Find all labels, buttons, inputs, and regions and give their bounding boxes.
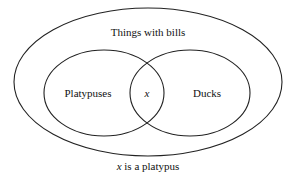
venn-diagram: Things with bills Platypuses x Ducks x i… — [0, 0, 290, 182]
set-platypuses-label: Platypuses — [64, 87, 111, 99]
caption-text: is a platypus — [122, 160, 180, 172]
caption: x is a platypus — [116, 160, 180, 172]
intersection-label: x — [144, 87, 150, 99]
set-ducks-label: Ducks — [193, 87, 221, 99]
outer-set-label: Things with bills — [111, 26, 186, 38]
